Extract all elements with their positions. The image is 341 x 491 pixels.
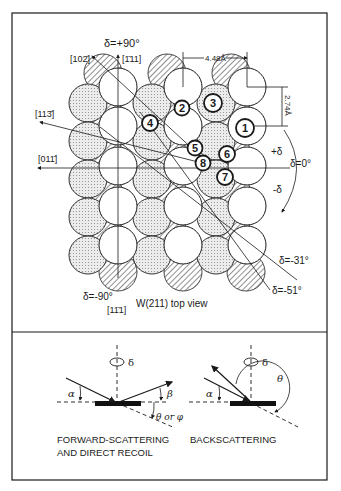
- direction-111-up-label: [1̄11]: [122, 54, 141, 64]
- first-layer-atoms: [99, 68, 266, 264]
- direction-102-label: [102̄]: [70, 54, 90, 64]
- lattice: [69, 54, 266, 291]
- direction-113-label: [113̄]: [35, 109, 54, 119]
- forward-theta-phi-label: θ or φ: [156, 412, 184, 422]
- marker-3-label: 3: [210, 97, 216, 109]
- plus-delta-label: +δ: [271, 146, 283, 157]
- delta-plus-90-label: δ=+90°: [104, 37, 140, 49]
- marker-5-label: 5: [192, 142, 198, 154]
- minus-delta-label: -δ: [273, 184, 282, 195]
- delta-minus-31-label: δ=-31°: [279, 255, 309, 266]
- delta-minus-90-label: δ=-90°: [83, 291, 113, 302]
- figure-title: W(211) top view: [136, 298, 208, 309]
- forward-alpha-label: α: [68, 388, 75, 399]
- delta-zero-label: δ=0°: [290, 158, 311, 169]
- back-caption: BACKSCATTERING: [190, 434, 276, 445]
- dimension-274-label: 2.74Å: [283, 95, 292, 117]
- forward-caption-line2: AND DIRECT RECOIL: [57, 447, 153, 458]
- marker-4-label: 4: [147, 117, 154, 129]
- dimension-448-label: 4.48Å: [205, 54, 227, 63]
- figure-canvas: 1 2 3 4 5 6 7 8 δ=+90° [102̄] [1̄11] [11…: [0, 0, 341, 491]
- marker-7-label: 7: [222, 171, 228, 183]
- forward-delta-label: δ: [128, 357, 134, 368]
- forward-caption-line1: FORWARD-SCATTERING: [57, 434, 169, 445]
- marker-1-label: 1: [242, 122, 248, 134]
- marker-2-label: 2: [179, 102, 185, 114]
- forward-beta-label: β: [166, 388, 173, 399]
- back-delta-label: δ: [262, 357, 268, 368]
- delta-minus-51-label: δ=-51°: [272, 285, 302, 296]
- direction-111-down-label: [11̄1]: [107, 305, 126, 315]
- back-alpha-label: α: [206, 388, 213, 399]
- second-layer-atoms: [69, 84, 235, 274]
- back-theta-label: θ: [277, 373, 283, 384]
- direction-011-label: [011̄]: [38, 154, 57, 164]
- marker-6-label: 6: [224, 148, 230, 160]
- backscattering-diagram: [189, 345, 298, 427]
- marker-8-label: 8: [200, 157, 206, 169]
